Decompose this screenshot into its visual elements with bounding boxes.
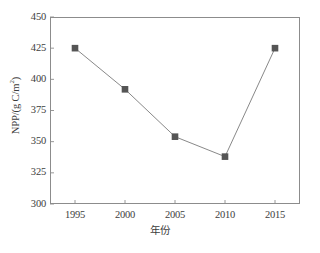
x-tick-label: 2000 [102,209,148,220]
npp-line-chart: 450425400375350325300 199520002005201020… [0,0,320,253]
x-tick-label: 2005 [152,209,198,220]
y-axis-title: NPP/(g C/m2) [10,36,21,176]
x-tick-label: 1995 [52,209,98,220]
x-axis-tick-labels: 19952000200520102015 [0,0,320,253]
x-tick-label: 2010 [202,209,248,220]
x-axis-title: 年份 [0,225,320,237]
x-tick-label: 2015 [252,209,298,220]
